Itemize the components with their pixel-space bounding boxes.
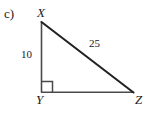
part-label: c)	[4, 7, 14, 20]
vertex-label-x: X	[37, 6, 45, 19]
side-length-xz: 25	[89, 38, 100, 49]
right-angle-marker	[42, 82, 53, 93]
vertex-label-y: Y	[36, 93, 43, 106]
side-xz-hypotenuse	[42, 22, 134, 93]
side-length-xy: 10	[21, 49, 32, 60]
geometry-figure: c) X Y Z 10 25	[0, 0, 149, 115]
vertex-label-z: Z	[135, 93, 142, 106]
